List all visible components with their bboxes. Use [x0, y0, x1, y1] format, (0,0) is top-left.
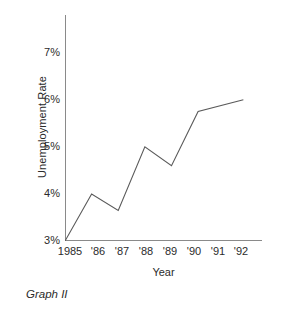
x-tick-label: '91	[211, 245, 225, 257]
graph-figure: Unemployment Rate 7% 6% 5% 4% 3% 1985 '8…	[0, 0, 281, 311]
y-tick-label: 7%	[16, 47, 60, 58]
x-tick-label: '90	[187, 245, 201, 257]
x-tick-label: '86	[91, 245, 105, 257]
x-tick-label: '92	[234, 245, 248, 257]
x-tick-label: '87	[115, 245, 129, 257]
y-tick-label: 5%	[16, 141, 60, 152]
x-tick-label: '89	[163, 245, 177, 257]
y-tick-label: 4%	[16, 188, 60, 199]
x-tick-label: '88	[139, 245, 153, 257]
x-tick-label: 1985	[58, 245, 82, 257]
x-axis-title: Year	[65, 266, 262, 278]
y-tick-label: 6%	[16, 94, 60, 105]
unemployment-rate-line-series	[65, 15, 262, 241]
plot-area	[65, 15, 262, 241]
x-axis-tick-labels: 1985 '86 '87 '88 '89 '90 '91 '92	[0, 245, 281, 261]
figure-caption: Graph II	[26, 288, 68, 300]
y-axis-tick-labels: 7% 6% 5% 4% 3%	[12, 0, 60, 311]
